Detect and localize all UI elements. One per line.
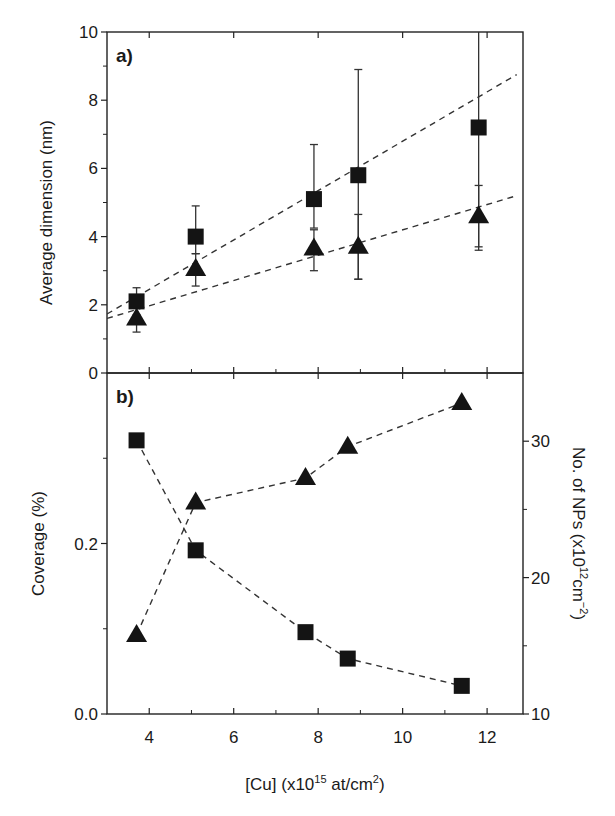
square-marker [188, 229, 204, 245]
plot-area [107, 15, 517, 332]
y-tick-label: 10 [79, 23, 98, 42]
plot-frame [107, 373, 523, 714]
figure: 0246810a)Average dimension (nm) 46810120… [0, 0, 615, 816]
label-part: 12 [578, 567, 590, 579]
fit-line-dashed [107, 196, 517, 319]
y-tick-label: 0.2 [74, 535, 98, 554]
label-part: cm [569, 579, 588, 602]
panel-label: b) [116, 386, 134, 407]
x-tick-label: 6 [229, 728, 238, 747]
square-marker [454, 678, 470, 694]
y-right-tick-label: 20 [531, 569, 550, 588]
square-marker [471, 119, 487, 135]
x-tick-label: 8 [313, 728, 322, 747]
square-marker [306, 191, 322, 207]
panel-a-average-dimension: 0246810a)Average dimension (nm) [37, 15, 523, 383]
x-tick-label: 4 [144, 728, 153, 747]
triangle-marker [468, 205, 489, 223]
x-tick-label: 10 [393, 728, 412, 747]
square-marker [297, 624, 313, 640]
series-line-dashed [137, 440, 462, 686]
y-tick-label: 0.0 [74, 705, 98, 724]
y-right-tick-label: 10 [531, 705, 550, 724]
y-tick-label: 2 [89, 296, 98, 315]
x-axis-label: [Cu] (x1015 at/cm2) [245, 773, 384, 794]
y-tick-label: 4 [89, 228, 98, 247]
triangle-marker [126, 624, 147, 642]
y-tick-label: 6 [89, 159, 98, 178]
square-marker [340, 651, 356, 667]
label-part: −2 [578, 602, 590, 615]
series-line-dashed [137, 403, 462, 635]
y-axis-label-right: No. of NPs (x1012cm−2) [569, 447, 590, 620]
y-right-tick-label: 30 [531, 432, 550, 451]
x-tick-label: 12 [478, 728, 497, 747]
square-marker [350, 167, 366, 183]
triangle-marker [451, 392, 472, 410]
panel-label: a) [116, 45, 133, 66]
triangle-marker [337, 436, 358, 454]
triangle-marker [303, 238, 324, 256]
label-part: ) [569, 614, 588, 620]
y-axis-label-left: Coverage (%) [29, 491, 48, 596]
square-marker [188, 542, 204, 558]
y-axis-label: Average dimension (nm) [37, 120, 56, 305]
y-tick-label: 8 [89, 91, 98, 110]
square-marker [129, 432, 145, 448]
panel-b-coverage-and-nps: 46810120.00.2b)102030Coverage (%)No. of … [29, 373, 590, 747]
square-marker [129, 293, 145, 309]
triangle-marker [126, 307, 147, 325]
y-tick-label: 0 [89, 364, 98, 383]
triangle-marker [295, 467, 316, 485]
triangle-marker [185, 492, 206, 510]
label-part: No. of NPs (x10 [569, 447, 588, 567]
